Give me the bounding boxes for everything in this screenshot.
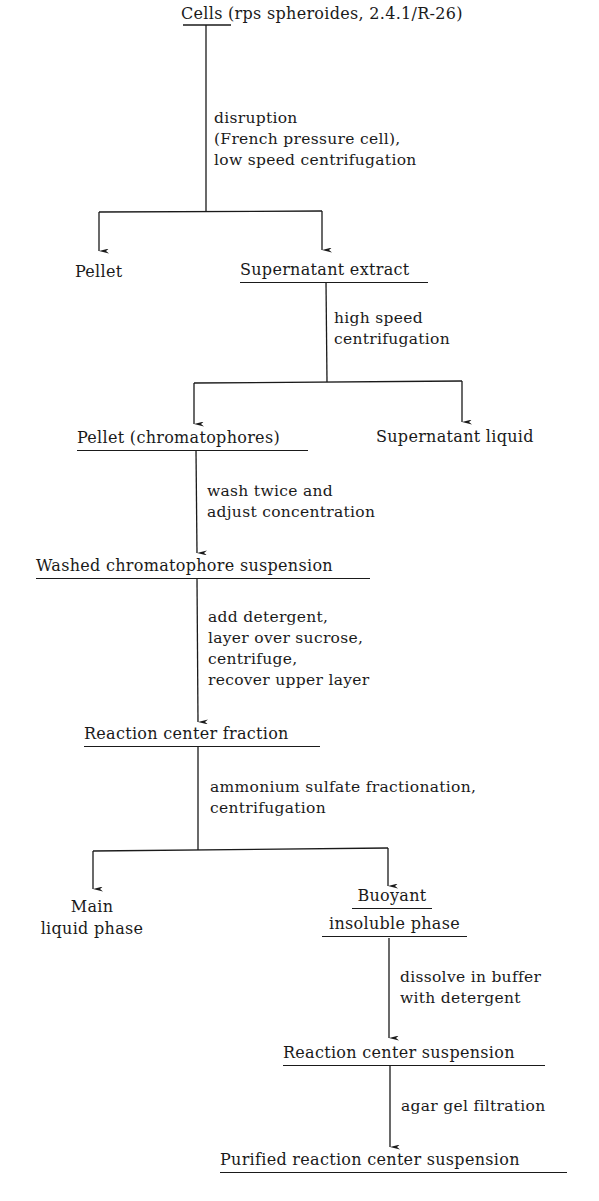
node-main-liquid-line1: Main: [32, 896, 152, 917]
step-s1-line2: (French pressure cell),: [214, 129, 401, 150]
step-s2-line1: high speed: [334, 308, 423, 329]
step-s4-line4: recover upper layer: [208, 670, 369, 691]
step-s5-line1: ammonium sulfate fractionation,: [210, 777, 476, 798]
node-buoyant-line2: insoluble phase: [322, 913, 467, 937]
node-purified-suspension: Purified reaction center suspension: [220, 1149, 567, 1173]
step-s4-line2: layer over sucrose,: [208, 628, 363, 649]
step-s6-line1: dissolve in buffer: [400, 967, 541, 988]
step-s7-line1: agar gel filtration: [401, 1096, 545, 1117]
step-s4-line1: add detergent,: [208, 607, 328, 628]
step-s3-line2: adjust concentration: [207, 502, 375, 523]
step-s1-line3: low speed centrifugation: [214, 150, 417, 171]
node-rc-suspension: Reaction center suspension: [283, 1042, 545, 1066]
node-cells: Cells (rps spheroides, 2.4.1/R-26): [181, 3, 463, 24]
step-s2-line2: centrifugation: [334, 329, 450, 350]
step-s3-line1: wash twice and: [207, 481, 333, 502]
step-s6-line2: with detergent: [400, 988, 521, 1009]
node-main-liquid-line2: liquid phase: [32, 918, 152, 939]
node-supernatant-liquid: Supernatant liquid: [376, 426, 534, 447]
step-s4-line3: centrifuge,: [208, 649, 297, 670]
node-pellet: Pellet: [75, 261, 122, 282]
node-rc-fraction: Reaction center fraction: [84, 723, 320, 747]
node-supernatant-extract: Supernatant extract: [240, 259, 428, 283]
node-pellet-chromatophores: Pellet (chromatophores): [77, 427, 308, 451]
step-s5-line2: centrifugation: [210, 798, 326, 819]
flowchart-lines: [0, 0, 599, 1201]
node-washed-suspension: Washed chromatophore suspension: [36, 555, 370, 579]
step-s1-line1: disruption: [214, 108, 298, 129]
node-buoyant-line1: Buoyant: [352, 885, 432, 909]
